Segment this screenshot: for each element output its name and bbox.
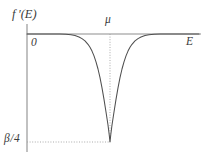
fprime-curve [27,34,199,142]
figure-container: f ′(E) 0 μ E β/4 [0,0,209,164]
beta-over-four-label: β/4 [4,133,20,145]
mu-label: μ [105,14,111,26]
y-axis-label: f ′(E) [12,8,37,21]
origin-label: 0 [31,37,37,49]
x-axis-label: E [186,36,193,48]
